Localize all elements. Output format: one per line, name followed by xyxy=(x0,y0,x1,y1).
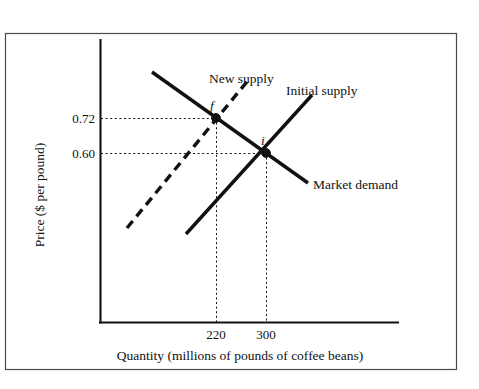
x-tick-label-300: 300 xyxy=(256,327,276,342)
supply-demand-chart: f i New supply Initial supply Market dem… xyxy=(0,0,479,389)
x-axis-title: Quantity (millions of pounds of coffee b… xyxy=(117,348,363,363)
point-label-i: i xyxy=(261,133,265,148)
figure-container: f i New supply Initial supply Market dem… xyxy=(0,0,479,389)
market-demand-label: Market demand xyxy=(313,177,398,192)
y-axis-title: Price ($ per pound) xyxy=(32,143,47,248)
x-tick-label-220: 220 xyxy=(206,327,226,342)
new-supply-label: New supply xyxy=(209,71,274,86)
y-tick-label-072: 0.72 xyxy=(72,111,95,126)
y-tick-label-060: 0.60 xyxy=(72,146,95,161)
equilibrium-point-i xyxy=(262,149,271,158)
initial-supply-label: Initial supply xyxy=(286,83,358,98)
equilibrium-point-f xyxy=(212,114,221,123)
